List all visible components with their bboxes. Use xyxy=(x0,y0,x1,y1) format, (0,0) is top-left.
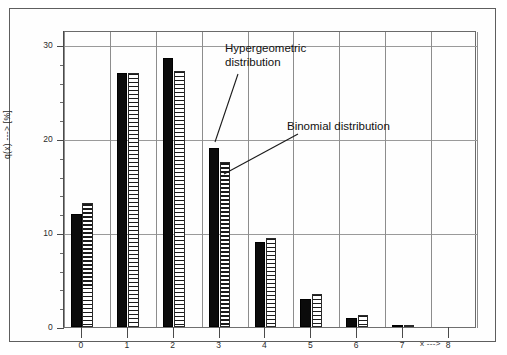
bar-group xyxy=(300,31,322,327)
x-tick xyxy=(127,327,128,338)
bar-binomial xyxy=(266,238,277,327)
bar-group xyxy=(255,31,277,327)
x-tick xyxy=(310,327,311,338)
x-tick xyxy=(81,327,82,338)
gridline-vertical xyxy=(156,32,157,328)
gridline-vertical xyxy=(202,32,203,328)
x-tick-label: 4 xyxy=(254,340,274,350)
gridline-vertical xyxy=(431,32,432,328)
figure-outer-border: q(x) ---> [%] x ---> Hypergeometric dist… xyxy=(9,8,496,342)
x-tick-label: 6 xyxy=(346,340,366,350)
gridline-vertical xyxy=(385,32,386,328)
bar-group xyxy=(346,31,368,327)
bar-group xyxy=(438,31,460,327)
x-tick-label: 2 xyxy=(163,340,183,350)
bar-binomial xyxy=(312,294,323,327)
bar-hypergeometric xyxy=(163,58,174,327)
plot-inner xyxy=(64,32,475,327)
x-tick xyxy=(264,327,265,338)
gridline-vertical xyxy=(110,32,111,328)
x-tick-label: 5 xyxy=(300,340,320,350)
bar-hypergeometric xyxy=(346,318,357,327)
annotation-binomial: Binomial distribution xyxy=(287,120,390,134)
bar-hypergeometric xyxy=(300,299,311,327)
x-tick-label: 1 xyxy=(117,340,137,350)
gridline-vertical xyxy=(293,32,294,328)
bar-hypergeometric xyxy=(71,214,82,327)
x-tick-label: 3 xyxy=(209,340,229,350)
bar-binomial xyxy=(82,203,93,327)
bar-binomial xyxy=(128,73,139,327)
y-tick-label: 0 xyxy=(29,322,53,332)
bar-hypergeometric xyxy=(117,73,128,327)
bar-hypergeometric xyxy=(255,242,266,327)
bar-group xyxy=(392,31,414,327)
x-tick xyxy=(448,327,449,338)
bar-group xyxy=(163,31,185,327)
bar-group xyxy=(117,31,139,327)
bar-binomial xyxy=(174,71,185,327)
annotation-hypergeometric: Hypergeometric distribution xyxy=(225,42,306,69)
x-tick xyxy=(219,327,220,338)
y-tick-label: 30 xyxy=(29,40,53,50)
plot-area xyxy=(63,31,476,327)
bar-group xyxy=(209,31,231,327)
x-tick xyxy=(356,327,357,338)
y-axis-spine xyxy=(63,31,64,329)
x-axis-baseline xyxy=(63,327,476,328)
x-tick xyxy=(173,327,174,338)
y-tick-label: 20 xyxy=(29,134,53,144)
gridline-vertical xyxy=(339,32,340,328)
bar-group xyxy=(71,31,93,327)
y-tick-label: 10 xyxy=(29,228,53,238)
y-axis-title: q(x) ---> [%] xyxy=(2,110,12,159)
bar-hypergeometric xyxy=(209,148,220,327)
bar-binomial xyxy=(358,315,369,327)
x-tick xyxy=(402,327,403,338)
gridline-vertical xyxy=(477,32,478,328)
x-tick-label: 0 xyxy=(71,340,91,350)
x-tick-label: 7 xyxy=(392,340,412,350)
gridline-vertical xyxy=(64,32,65,328)
gridline-vertical xyxy=(248,32,249,328)
x-tick-label: 8 xyxy=(438,340,458,350)
bar-binomial xyxy=(220,162,231,327)
